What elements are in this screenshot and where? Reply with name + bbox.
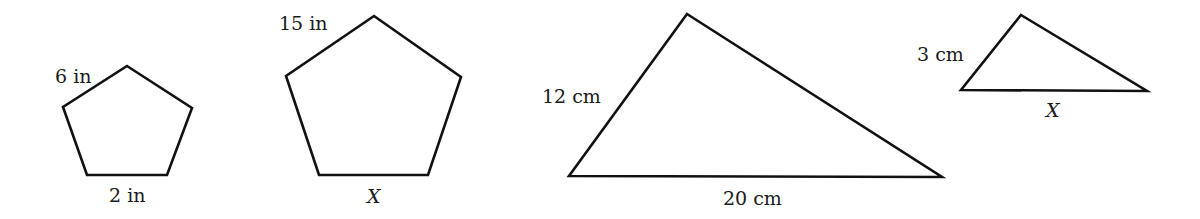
large-triangle: [569, 14, 942, 177]
side-label-12-cm: 12 cm: [542, 85, 601, 107]
side-label-6-in: 6 in: [55, 65, 91, 87]
similar-figures-diagram: 6 in 2 in 15 in X 12 cm 20 cm 3 cm X: [0, 0, 1200, 219]
side-label-20-cm: 20 cm: [723, 187, 782, 209]
large-pentagon-figure: 15 in X: [279, 12, 461, 207]
side-label-15-in: 15 in: [279, 12, 328, 34]
small-triangle-figure: 3 cm X: [917, 15, 1147, 121]
large-pentagon: [286, 16, 461, 175]
side-label-3-cm: 3 cm: [917, 43, 964, 65]
small-triangle: [961, 15, 1147, 91]
side-label-x-pentagon: X: [365, 185, 382, 207]
side-label-2-in: 2 in: [109, 184, 145, 206]
large-triangle-figure: 12 cm 20 cm: [542, 14, 942, 209]
small-pentagon-figure: 6 in 2 in: [55, 65, 192, 206]
side-label-x-triangle: X: [1044, 99, 1061, 121]
